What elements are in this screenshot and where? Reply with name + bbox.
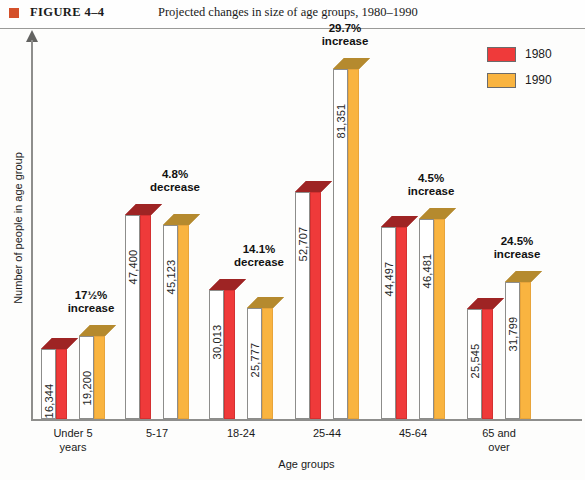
bar-value-label: 47,400 <box>127 250 139 285</box>
category-label-line: years <box>29 440 117 454</box>
bar-1980[interactable]: 30,013 <box>209 290 235 419</box>
category-label: 65 andover <box>455 426 543 454</box>
figure-page: FIGURE 4–4 Projected changes in size of … <box>0 0 585 480</box>
bar-group: 14.1%decrease30,01325,777 <box>209 40 309 419</box>
bar-1980[interactable]: 16,344 <box>41 349 67 419</box>
category-label-line: 5-17 <box>113 426 201 440</box>
category-label-line: 25-44 <box>283 426 371 440</box>
bar-top-face <box>467 298 504 309</box>
header-divider <box>0 28 585 29</box>
category-label-line: 45-64 <box>369 426 457 440</box>
y-axis-label: Number of people in age group <box>12 138 24 318</box>
category-label: 45-64 <box>369 426 457 440</box>
bar-value-label: 52,707 <box>297 227 309 262</box>
bar-side-face <box>224 290 235 419</box>
bar-value-label: 30,013 <box>211 325 223 360</box>
bar-front-face <box>163 225 178 419</box>
bar-value-label: 19,200 <box>81 371 93 406</box>
category-label-line: Under 5 <box>29 426 117 440</box>
bar-value-label: 31,799 <box>507 317 519 352</box>
bar-1990[interactable]: 25,777 <box>247 308 273 419</box>
bar-value-label: 46,481 <box>421 254 433 289</box>
category-label: 18-24 <box>197 426 285 440</box>
percent-change-annotation: 14.1%decrease <box>209 243 309 269</box>
bar-value-label: 44,497 <box>383 262 395 297</box>
percent-direction: decrease <box>209 256 309 269</box>
bar-group: 4.5%increase44,49746,481 <box>381 40 481 419</box>
category-label-line: 18-24 <box>197 426 285 440</box>
category-label: 25-44 <box>283 426 371 440</box>
bar-side-face <box>434 219 445 419</box>
category-label: 5-17 <box>113 426 201 440</box>
bar-side-face <box>396 227 407 419</box>
bar-1980[interactable]: 52,707 <box>295 192 321 419</box>
bar-top-face <box>125 204 162 215</box>
bar-1980[interactable]: 44,497 <box>381 227 407 419</box>
bar-1990[interactable]: 46,481 <box>419 219 445 419</box>
bar-top-face <box>41 338 78 349</box>
category-label-line: 65 and <box>455 426 543 440</box>
bar-1990[interactable]: 19,200 <box>79 336 105 419</box>
bar-1980[interactable]: 25,545 <box>467 309 493 419</box>
square-bullet-icon <box>9 8 19 18</box>
bar-top-face <box>163 214 200 225</box>
bar-value-label: 25,545 <box>469 344 481 379</box>
percent-direction: increase <box>295 35 395 48</box>
bar-top-face <box>333 58 370 69</box>
x-axis-line <box>31 419 582 421</box>
figure-header: FIGURE 4–4 Projected changes in size of … <box>0 0 585 28</box>
category-label-line: over <box>455 440 543 454</box>
bar-side-face <box>348 69 359 419</box>
percent-direction: increase <box>467 248 567 261</box>
bar-side-face <box>94 336 105 419</box>
bar-top-face <box>505 271 542 282</box>
bar-1980[interactable]: 47,400 <box>125 215 151 419</box>
plot-area: 17½%increase16,34419,2004.8%decrease47,4… <box>33 40 582 419</box>
bar-group: 24.5%increase25,54531,799 <box>467 40 567 419</box>
bar-group: 29.7%increase52,70781,351 <box>295 40 395 419</box>
bar-1990[interactable]: 45,123 <box>163 225 189 419</box>
bar-value-label: 16,344 <box>43 384 55 419</box>
x-axis-label: Age groups <box>31 458 582 470</box>
percent-value: 24.5% <box>467 235 567 248</box>
bar-front-face <box>125 215 140 419</box>
bar-top-face <box>79 325 116 336</box>
bar-value-label: 45,123 <box>165 260 177 295</box>
bar-side-face <box>178 225 189 419</box>
bar-top-face <box>247 297 284 308</box>
bar-value-label: 25,777 <box>249 343 261 378</box>
percent-value: 14.1% <box>209 243 309 256</box>
bar-1990[interactable]: 81,351 <box>333 69 359 419</box>
bar-side-face <box>520 282 531 419</box>
bar-front-face <box>381 227 396 419</box>
percent-change-annotation: 24.5%increase <box>467 235 567 261</box>
bar-value-label: 81,351 <box>335 104 347 139</box>
bar-side-face <box>482 309 493 419</box>
bar-side-face <box>56 349 67 419</box>
figure-title: Projected changes in size of age groups,… <box>158 5 418 20</box>
bar-top-face <box>381 216 418 227</box>
bar-front-face <box>419 219 434 419</box>
category-label: Under 5years <box>29 426 117 454</box>
percent-value: 4.5% <box>381 172 481 185</box>
bar-1990[interactable]: 31,799 <box>505 282 531 419</box>
bar-top-face <box>295 181 332 192</box>
bar-side-face <box>310 192 321 419</box>
bar-side-face <box>140 215 151 419</box>
percent-change-annotation: 29.7%increase <box>295 22 395 48</box>
figure-number: FIGURE 4–4 <box>30 5 105 20</box>
percent-change-annotation: 4.5%increase <box>381 172 481 198</box>
percent-value: 29.7% <box>295 22 395 35</box>
bar-top-face <box>419 208 456 219</box>
bar-top-face <box>209 279 246 290</box>
bar-side-face <box>262 308 273 419</box>
percent-direction: increase <box>381 185 481 198</box>
